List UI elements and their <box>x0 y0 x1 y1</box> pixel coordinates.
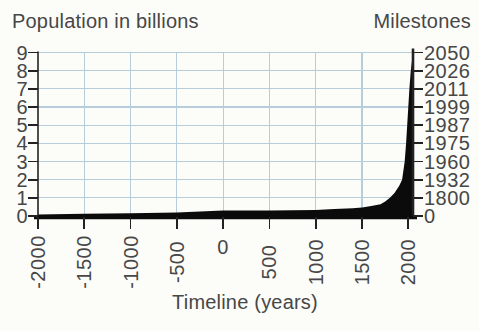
x-tick-label--2000: -2000 <box>27 235 49 289</box>
tick-marks <box>28 53 423 230</box>
population-growth-chart-figure: Population in billions Milestones 012345… <box>0 0 479 331</box>
y-tick-label-9: 9 <box>1 42 28 64</box>
x-tick-label--1000: -1000 <box>120 235 142 289</box>
x-tick-label-1000: 1000 <box>305 239 327 286</box>
population-area-series <box>38 53 413 217</box>
x-tick-label-1500: 1500 <box>351 239 373 286</box>
x-tick-label--1500: -1500 <box>73 235 95 289</box>
x-tick-label-2000: 2000 <box>397 239 419 286</box>
x-tick-label--500: -500 <box>166 241 188 283</box>
x-axis-title: Timeline (years) <box>172 291 318 313</box>
x-tick-label-0: 0 <box>217 236 229 258</box>
x-tick-label-500: 500 <box>258 245 280 280</box>
gridlines <box>38 53 413 217</box>
milestone-label-0: 0 <box>424 205 436 227</box>
